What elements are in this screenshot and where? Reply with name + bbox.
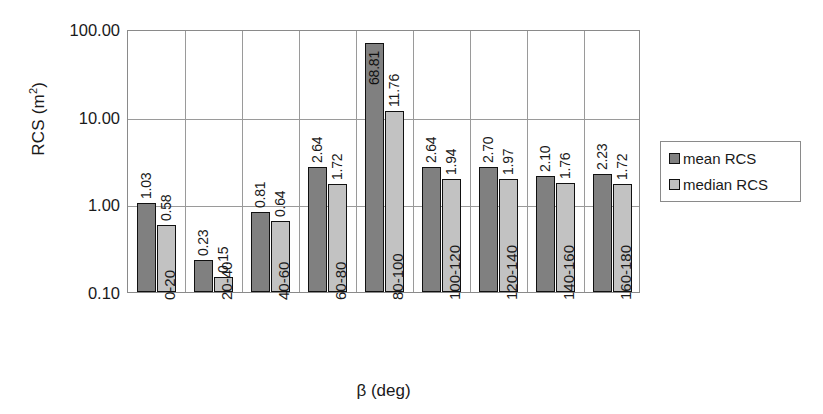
y-axis-title-text: RCS (m	[29, 94, 48, 156]
bar-value-label: 2.64	[424, 137, 438, 163]
bar-mean-rcs[interactable]	[479, 167, 498, 292]
legend-item-label: median RCS	[683, 176, 768, 193]
legend-item[interactable]: median RCS	[669, 176, 794, 193]
x-axis-tick-labels: 0-2020-4040-6060-8080-100100-120120-1401…	[127, 296, 640, 386]
x-axis-tick-label: 0-20	[162, 270, 177, 300]
bar-mean-rcs[interactable]	[251, 212, 270, 292]
legend-swatch-median-icon	[669, 179, 680, 190]
bar-value-label: 1.72	[330, 153, 344, 179]
y-axis-tick-label: 1.00	[48, 197, 120, 214]
legend-swatch-mean-icon	[669, 153, 680, 164]
y-axis-tick-label: 100.00	[48, 22, 120, 39]
legend-item-label: mean RCS	[683, 150, 756, 167]
bar-mean-rcs[interactable]	[137, 203, 156, 292]
bar-group: 1.030.58	[128, 31, 185, 292]
bar-value-label: 68.81	[367, 51, 381, 85]
bar-value-label: 1.76	[558, 152, 572, 178]
bar-group: 0.810.64	[242, 31, 299, 292]
y-axis-title: RCS (m2)	[27, 59, 49, 179]
x-axis-tick-label: 160-180	[618, 245, 633, 300]
bar-mean-rcs[interactable]	[194, 260, 213, 292]
x-axis-tick-label: 140-160	[561, 245, 576, 300]
x-axis-tick-label: 60-80	[333, 262, 348, 300]
bar-group: 0.230.15	[185, 31, 242, 292]
bar-mean-rcs[interactable]	[422, 167, 441, 292]
x-axis-tick-label: 20-40	[219, 262, 234, 300]
y-axis-title-exponent: 2	[27, 88, 39, 94]
bar-value-label: 2.64	[310, 137, 324, 163]
y-axis-tick-label: 10.00	[48, 110, 120, 127]
bar-value-label: 2.23	[595, 143, 609, 169]
bar-value-label: 1.94	[444, 149, 458, 175]
y-axis-title-paren: )	[29, 82, 48, 88]
bar-value-label: 0.23	[196, 230, 210, 256]
legend: mean RCSmedian RCS	[660, 141, 801, 202]
bar-mean-rcs[interactable]	[536, 176, 555, 292]
bar-value-label: 2.10	[538, 146, 552, 172]
bar-value-label: 0.64	[273, 191, 287, 217]
legend-item[interactable]: mean RCS	[669, 150, 794, 167]
rcs-bar-chart: RCS (m2) 100.0010.001.000.10 1.030.580.2…	[0, 0, 823, 414]
y-axis-tick-labels: 100.0010.001.000.10	[48, 0, 120, 414]
x-axis-tick-label: 120-140	[504, 245, 519, 300]
x-axis-title: β (deg)	[127, 381, 640, 401]
x-axis-tick-label: 100-120	[447, 245, 462, 300]
x-axis-tick-label: 40-60	[276, 262, 291, 300]
bar-mean-rcs[interactable]	[308, 167, 327, 292]
bar-value-label: 1.72	[615, 153, 629, 179]
bar-value-label: 0.58	[159, 195, 173, 221]
x-axis-tick-label: 80-100	[390, 253, 405, 300]
bar-value-label: 2.70	[481, 136, 495, 162]
bar-value-label: 0.81	[253, 182, 267, 208]
y-axis-tick-label: 0.10	[48, 285, 120, 302]
bar-value-label: 1.03	[139, 173, 153, 199]
bar-value-label: 1.97	[501, 148, 515, 174]
bar-value-label: 11.76	[387, 74, 401, 107]
bar-group: 2.641.72	[299, 31, 356, 292]
bar-mean-rcs[interactable]	[593, 174, 612, 292]
